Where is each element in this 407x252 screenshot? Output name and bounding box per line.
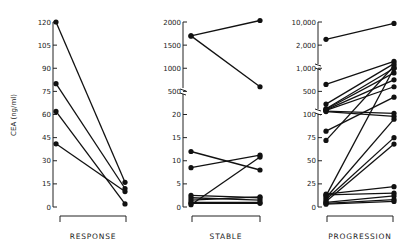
group-label-progression: PROGRESSION [328,232,391,241]
y-tick-label: 15 [42,180,51,188]
y-tick-label: 500 [303,88,316,96]
data-point [257,154,262,159]
y-tick-label: 30 [42,157,51,165]
y-tick-label: 10,000 [292,19,317,27]
cea-chart-figure: CEA (ng/ml) 1201059075604530150 RESPONSE… [0,0,407,252]
data-point [323,129,328,134]
data-point [391,199,396,204]
data-point [53,19,58,24]
data-point [391,84,396,89]
series-line [56,84,125,189]
y-tick-label: 500 [168,88,181,96]
y-tick-label: 75 [307,134,316,142]
y-tick-label: 120 [38,19,51,27]
y-tick-label: 1500 [163,42,181,50]
y-tick-label: 0 [312,204,316,212]
panel-progression: 10,0002,0001,0005001007550250 PROGRESSIO… [292,19,397,242]
series-line [191,152,260,171]
series-line [56,144,125,192]
data-point [391,117,396,122]
data-point [323,109,328,114]
panel-response: 1201059075604530150 RESPONSE [38,19,128,242]
data-point [391,21,396,26]
y-axis-label: CEA (ng/ml) [10,94,18,136]
y-tick-label: 100 [303,111,316,119]
series-line [191,21,260,36]
y-tick-label: 10 [172,157,181,165]
data-point [188,33,193,38]
data-point [391,142,396,147]
data-point [257,201,262,206]
y-tick-label: 5 [177,180,181,188]
group-label-stable: STABLE [210,232,243,241]
data-point [391,184,396,189]
y-tick-label: 75 [42,88,51,96]
data-point [257,84,262,89]
group-bracket [327,216,393,222]
data-point [391,95,396,100]
y-tick-label: 1,000 [296,65,316,73]
y-tick-label: 15 [172,134,181,142]
data-point [391,77,396,82]
data-point [323,101,328,106]
series-lines [323,21,396,207]
data-point [257,194,262,199]
y-tick-label: 90 [42,65,51,73]
y-ticks: 1201059075604530150 [38,19,57,212]
data-point [122,189,127,194]
data-point [257,167,262,172]
y-tick-label: 2,000 [296,42,316,50]
series-lines [188,18,262,207]
data-point [188,201,193,206]
series-line [326,23,394,39]
y-tick-label: 20 [172,111,181,119]
data-point [122,180,127,185]
y-tick-label: 0 [47,204,51,212]
series-line [191,155,260,167]
data-point [122,201,127,206]
group-bracket [60,216,126,222]
data-point [323,192,328,197]
y-tick-label: 2000 [163,19,181,27]
y-tick-label: 1000 [163,65,181,73]
data-point [188,165,193,170]
data-point [323,202,328,207]
data-point [257,18,262,23]
data-point [391,135,396,140]
y-tick-label: 105 [38,42,51,50]
series-line [191,36,260,87]
y-tick-label: 60 [42,111,51,119]
y-tick-label: 0 [177,204,181,212]
series-line [326,61,394,84]
data-point [53,81,58,86]
data-point [323,37,328,42]
data-point [391,66,396,71]
series-line [326,68,394,196]
y-tick-label: 45 [42,134,51,142]
data-point [53,109,58,114]
y-tick-label: 50 [307,157,316,165]
data-point [323,82,328,87]
group-label-response: RESPONSE [70,232,117,241]
data-point [188,149,193,154]
y-tick-label: 25 [307,180,316,188]
series-lines [53,19,127,206]
panel-stable: 20001500100050020151050 STABLE [163,18,262,241]
data-point [53,141,58,146]
data-point [323,138,328,143]
group-bracket [192,216,260,222]
y-ticks: 10,0002,0001,0005001007550250 [292,19,323,212]
